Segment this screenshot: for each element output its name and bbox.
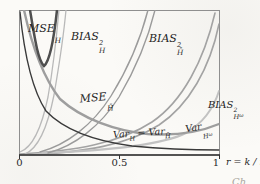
label-mse-h-main: MSE [28,22,55,35]
x-tick-1: 1 [210,158,222,168]
label-var-h-omega-main: Var [184,121,202,135]
label-mse-h: MSEH [28,23,61,44]
figure: MSEH BIAS2H BIAS2H̄ MSEH̄ VarH = VarH̄ B… [0,0,260,184]
label-bias2-h-omega-main: BIAS [208,99,233,110]
label-bias2-h-main: BIAS [71,30,99,43]
x-axis-title: r = k / n [226,157,260,167]
label-bias2-h-omega: BIAS2Hω [208,100,243,120]
caption-fragment: Ch [232,177,246,184]
x-tick-0: 0 [13,158,26,168]
x-tick-05: 0.5 [107,158,132,168]
label-var-h-omega: VarHω [185,120,213,142]
label-bias2-hbar: BIAS2H̄ [149,33,183,56]
label-mse-hbar-main: MSE [79,90,107,105]
label-bias2-hbar-main: BIAS [149,32,177,45]
label-bias2-h: BIAS2H [71,31,105,54]
label-mse-hbar: MSEH̄ [79,91,114,115]
